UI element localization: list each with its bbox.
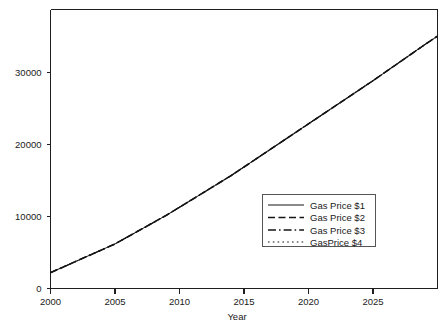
legend-label: Gas Price $2 [310, 212, 365, 223]
legend-label: GasPrice $4 [310, 237, 362, 248]
x-tick-label: 2015 [233, 296, 254, 307]
x-axis-title: Year [227, 311, 246, 322]
x-tick-label: 2000 [40, 296, 61, 307]
legend-label: Gas Price $1 [310, 200, 365, 211]
x-tick-label: 2025 [362, 296, 383, 307]
y-axis: 0100002000030000 [15, 67, 50, 294]
legend-label: Gas Price $3 [310, 225, 365, 236]
x-tick-label: 2020 [298, 296, 319, 307]
legend: Gas Price $1Gas Price $2Gas Price $3GasP… [263, 195, 376, 248]
y-tick-label: 20000 [15, 139, 41, 150]
y-tick-label: 10000 [15, 211, 41, 222]
y-tick-label: 30000 [15, 67, 41, 78]
chart-figure: 0100002000030000 20002005201020152020202… [0, 0, 448, 330]
series-line [51, 36, 438, 273]
x-tick-label: 2010 [169, 296, 190, 307]
series-line [51, 36, 438, 273]
series-line [51, 36, 438, 273]
series-line [51, 36, 438, 273]
x-axis: 200020052010201520202025 [40, 289, 384, 307]
x-tick-label: 2005 [104, 296, 125, 307]
line-chart: 0100002000030000 20002005201020152020202… [0, 0, 448, 330]
data-series-group [51, 36, 438, 273]
y-tick-label: 0 [36, 283, 41, 294]
